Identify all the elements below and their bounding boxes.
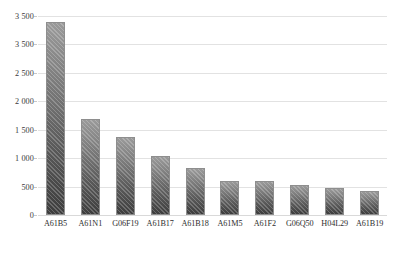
y-axis-tick-label: 2 000 (15, 97, 34, 106)
y-axis-tick-label: 1 000 (15, 154, 34, 163)
bar-slot (247, 16, 282, 215)
bar-slot (317, 16, 352, 215)
y-axis-tick-label: 1 500 (15, 125, 34, 134)
y-axis-tickmark (34, 215, 37, 216)
bar (255, 181, 274, 215)
y-axis-tickmark (34, 158, 37, 159)
y-axis-tickmark (34, 16, 37, 17)
plot-area (38, 16, 387, 215)
bar (186, 168, 205, 215)
bar-slot (143, 16, 178, 215)
x-axis-tick-label: A61B17 (143, 219, 178, 228)
y-axis-tick-label: 3 500 (15, 12, 34, 21)
bar-slot (38, 16, 73, 215)
bar-slot (282, 16, 317, 215)
bar (220, 181, 239, 215)
bar-series (38, 16, 387, 215)
y-axis-tickmark (34, 187, 37, 188)
x-axis-tick-label: G06F19 (108, 219, 143, 228)
y-axis-tickmark (34, 101, 37, 102)
y-axis-tickmark (34, 130, 37, 131)
x-axis-tick-label: A61B5 (38, 219, 73, 228)
bar-slot (178, 16, 213, 215)
bar (46, 22, 65, 215)
bar-chart: 3 5003 5002 5002 0001 5001 0005000 A61B5… (0, 0, 395, 255)
bar (290, 185, 309, 215)
x-axis-tick-label: H04L29 (317, 219, 352, 228)
x-axis-tick-label: A61B19 (352, 219, 387, 228)
y-axis-tick-label: 3 500 (15, 40, 34, 49)
gridline (38, 215, 387, 216)
bar-slot (213, 16, 248, 215)
y-axis-tickmark (34, 44, 37, 45)
x-axis: A61B5A61N1G06F19A61B17A61B18A61M5A61F2G0… (38, 219, 387, 228)
x-axis-tick-label: A61M5 (213, 219, 248, 228)
x-axis-tick-label: A61F2 (247, 219, 282, 228)
bar (81, 119, 100, 215)
bar (151, 156, 170, 215)
y-axis-tick-label: 500 (21, 182, 34, 191)
bar (325, 188, 344, 215)
x-axis-tick-label: A61B18 (178, 219, 213, 228)
y-axis-tick-label: 2 500 (15, 68, 34, 77)
bar-slot (108, 16, 143, 215)
x-axis-tick-label: G06Q50 (282, 219, 317, 228)
bar-slot (73, 16, 108, 215)
bar (360, 191, 379, 215)
bar-slot (352, 16, 387, 215)
y-axis-tickmark (34, 73, 37, 74)
bar (116, 137, 135, 215)
x-axis-tick-label: A61N1 (73, 219, 108, 228)
y-axis: 3 5003 5002 5002 0001 5001 0005000 (0, 16, 34, 215)
